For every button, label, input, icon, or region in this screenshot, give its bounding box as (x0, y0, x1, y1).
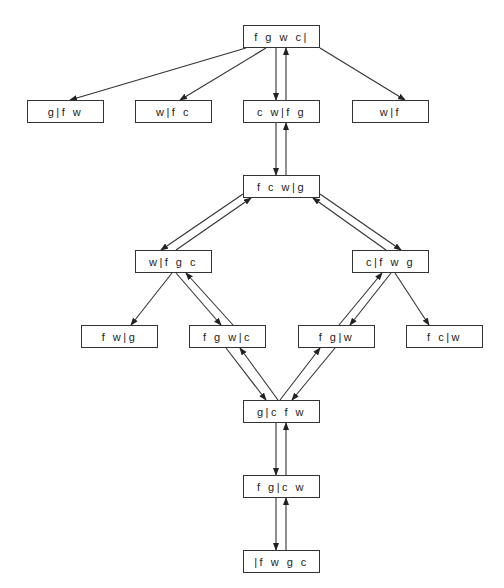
edge-n6-to-n8 (131, 273, 172, 325)
edge-n5-to-n6 (161, 194, 243, 250)
state-node: |f w g c (243, 550, 320, 573)
edge-n5-to-n7 (320, 194, 401, 250)
state-node: f w|g (81, 325, 158, 348)
edges-layer (0, 0, 504, 588)
state-node: w|f (352, 100, 429, 123)
edge-n7-to-n5 (313, 198, 386, 250)
state-node: w|f c (135, 100, 212, 123)
edge-n9-to-n6 (186, 273, 233, 325)
edge-n7-to-n11 (395, 273, 429, 325)
state-node: f c|w (406, 325, 483, 348)
edge-n0-to-n2 (180, 48, 266, 100)
edge-n7-to-n10 (350, 273, 391, 325)
state-node: g|f w (27, 100, 104, 123)
state-node: f g w|c (189, 325, 266, 348)
state-node: c w|f g (243, 100, 320, 123)
state-node: f g|c w (243, 475, 320, 498)
edge-n6-to-n9 (176, 273, 221, 325)
state-node: f c w|g (243, 175, 320, 198)
state-node: f g|w (298, 325, 375, 348)
state-node: f g w c| (243, 25, 320, 48)
edge-n0-to-n4 (320, 48, 405, 100)
state-node: w|f g c (135, 250, 212, 273)
state-node: c|f w g (352, 250, 429, 273)
edge-n0-to-n1 (70, 48, 246, 100)
state-node: g|c f w (243, 400, 320, 423)
edge-n6-to-n5 (176, 198, 251, 250)
edge-n10-to-n7 (339, 273, 382, 325)
